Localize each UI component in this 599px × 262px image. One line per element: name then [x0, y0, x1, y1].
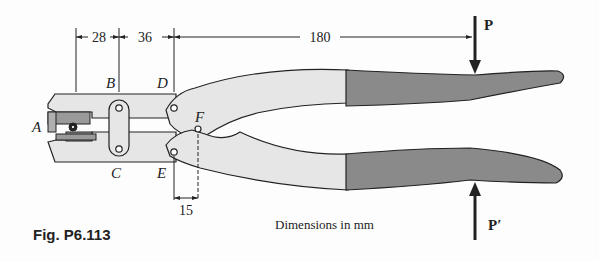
label-b: B — [106, 75, 115, 91]
crimp-jaws — [48, 112, 96, 141]
pin-e — [171, 149, 177, 155]
dim-dp: 180 — [310, 30, 331, 45]
figure-canvas: 28 36 180 15 A B D F C E — [0, 0, 599, 262]
label-force-p: P — [484, 17, 493, 33]
dimensions-note: Dimensions in mm — [275, 217, 374, 232]
upper-grip — [346, 70, 564, 106]
label-force-p-prime: P′ — [488, 217, 501, 233]
label-d: D — [156, 75, 168, 91]
upper-handle — [166, 69, 348, 138]
dim-ab: 28 — [92, 30, 106, 45]
lower-handle — [166, 130, 348, 190]
figure-caption: Fig. P6.113 — [33, 226, 111, 243]
label-e: E — [156, 165, 166, 181]
dim-bd: 36 — [138, 30, 152, 45]
dim-ef: 15 — [179, 203, 193, 218]
pin-d — [171, 105, 177, 111]
label-c: C — [111, 165, 122, 181]
force-arrow-p — [469, 16, 481, 74]
link-bc — [109, 100, 129, 156]
label-f: F — [194, 109, 205, 125]
force-arrow-p-prime — [469, 182, 481, 240]
lower-grip — [346, 148, 562, 190]
pin-f — [195, 126, 201, 132]
label-a: A — [31, 119, 42, 135]
pliers-diagram: 28 36 180 15 A B D F C E — [0, 0, 599, 262]
